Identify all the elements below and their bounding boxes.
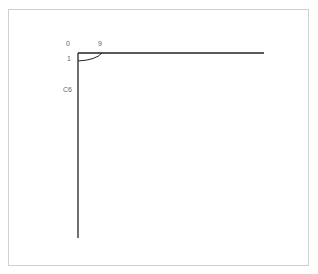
angle-arc [78,53,102,61]
label-top-right: 9 [98,40,102,48]
corner-lines-diagram [0,0,318,274]
label-top-left: 0 [66,40,70,48]
label-left-mid: C6 [63,86,72,94]
label-left-upper: 1 [67,55,71,63]
